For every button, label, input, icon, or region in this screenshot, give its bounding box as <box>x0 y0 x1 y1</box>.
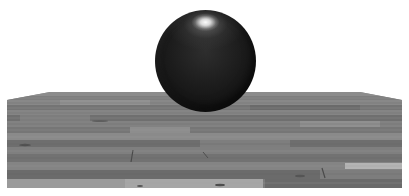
glossy-sphere <box>155 10 256 112</box>
render-scene: 3D render of a dark glossy sphere floati… <box>0 0 409 196</box>
